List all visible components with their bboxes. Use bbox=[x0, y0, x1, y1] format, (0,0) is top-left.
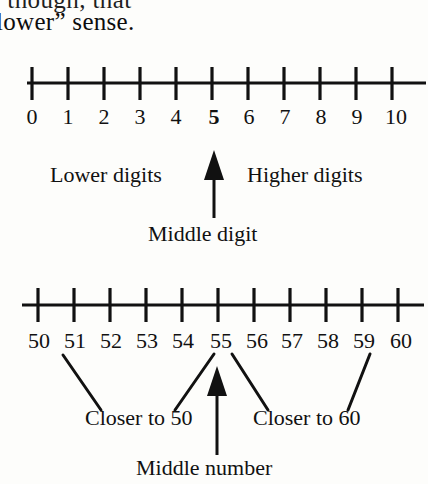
tick-label-59: 59 bbox=[353, 330, 375, 352]
arrow-head-bottom bbox=[207, 366, 227, 396]
tick-label-3: 3 bbox=[135, 106, 146, 128]
top-number-line-axis bbox=[27, 67, 426, 100]
tick-label-7: 7 bbox=[280, 106, 291, 128]
middle-digit-arrow bbox=[204, 150, 224, 218]
tick-label-0: 0 bbox=[27, 106, 38, 128]
tick-label-54: 54 bbox=[172, 330, 194, 352]
caption-closer-to-60: Closer to 60 bbox=[253, 406, 361, 430]
tick-label-10: 10 bbox=[385, 106, 407, 128]
tick-label-4: 4 bbox=[171, 106, 182, 128]
tick-label-8: 8 bbox=[316, 106, 327, 128]
tick-label-53: 53 bbox=[136, 330, 158, 352]
leader-line-closer-to-50-right bbox=[175, 354, 214, 410]
tick-label-60: 60 bbox=[390, 330, 412, 352]
tick-label-5-highlighted: 5 bbox=[209, 106, 220, 128]
caption-closer-to-50: Closer to 50 bbox=[85, 406, 193, 430]
leader-line-closer-to-50-left bbox=[63, 355, 101, 410]
leader-line-closer-to-60-right bbox=[348, 354, 370, 410]
scanned-page: , though, that lower” sense. bbox=[0, 0, 428, 484]
tick-label-51: 51 bbox=[64, 330, 86, 352]
tick-label-1: 1 bbox=[63, 106, 74, 128]
tick-label-56: 56 bbox=[246, 330, 268, 352]
leader-line-closer-to-60-left bbox=[232, 354, 268, 410]
tick-label-52: 52 bbox=[100, 330, 122, 352]
caption-higher-digits: Higher digits bbox=[247, 163, 363, 187]
middle-number-arrow bbox=[207, 366, 227, 455]
tick-label-50: 50 bbox=[28, 330, 50, 352]
tick-label-9: 9 bbox=[352, 106, 363, 128]
tick-label-57: 57 bbox=[281, 330, 303, 352]
tick-label-6: 6 bbox=[244, 106, 255, 128]
caption-middle-number: Middle number bbox=[136, 456, 272, 480]
caption-middle-digit: Middle digit bbox=[148, 222, 257, 246]
bottom-number-line-axis bbox=[22, 288, 424, 322]
arrow-head-top bbox=[204, 150, 224, 180]
caption-lower-digits: Lower digits bbox=[50, 163, 162, 187]
tick-label-2: 2 bbox=[99, 106, 110, 128]
tick-label-58: 58 bbox=[317, 330, 339, 352]
tick-label-55: 55 bbox=[210, 330, 232, 352]
